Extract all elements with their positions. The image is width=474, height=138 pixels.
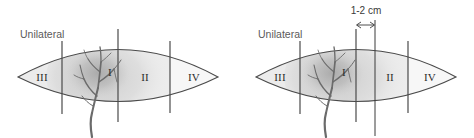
zone-label-ii-right: II: [386, 71, 394, 83]
zone-label-i-right: I: [342, 66, 346, 78]
zone-label-iii-left: III: [36, 71, 48, 83]
left-panel: Unilateral III I II IV: [18, 18, 220, 137]
zone-label-iii-right: III: [274, 71, 286, 83]
diagram-canvas: Unilateral III I II IV: [0, 0, 474, 138]
side-label-left: Unilateral: [20, 28, 64, 40]
right-panel: 1-2 cm Unilateral III I II: [256, 5, 458, 137]
zone-label-iv-left: IV: [188, 71, 200, 83]
zone-diagram-svg: Unilateral III I II IV: [0, 0, 474, 138]
zone-label-i-left: I: [108, 66, 112, 78]
measurement-arrow: [357, 22, 375, 28]
zone-label-ii-left: II: [141, 71, 149, 83]
side-label-right: Unilateral: [258, 28, 302, 40]
zone-label-iv-right: IV: [424, 71, 436, 83]
measurement-label: 1-2 cm: [351, 5, 382, 16]
